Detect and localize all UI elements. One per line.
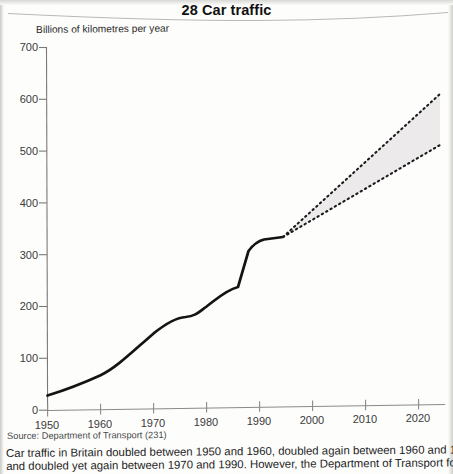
ytick-label-0: 0 <box>4 404 38 416</box>
ytick-label-200: 200 <box>4 300 38 312</box>
figure-page: 28 Car traffic Billions of kilometres pe… <box>0 0 453 474</box>
ytick-label-600: 600 <box>4 93 38 105</box>
xtick-label-1980: 1980 <box>186 416 226 428</box>
ytick-label-500: 500 <box>4 145 38 157</box>
series-actual-line <box>48 237 284 396</box>
ytick-label-700: 700 <box>4 41 38 53</box>
xtick-label-1960: 1960 <box>80 418 120 430</box>
source-note: Source: Department of Transport (231) <box>7 430 167 441</box>
xtick-label-1950: 1950 <box>27 419 67 431</box>
x-axis-line <box>48 405 445 411</box>
xtick-label-2000: 2000 <box>292 414 332 426</box>
ytick-label-100: 100 <box>4 352 38 364</box>
ytick-label-300: 300 <box>4 249 38 261</box>
series-forecast-low <box>283 145 440 237</box>
xtick-label-2020: 2020 <box>398 412 438 424</box>
series-forecast-high <box>283 94 440 237</box>
xtick-label-1970: 1970 <box>133 417 173 429</box>
figure-caption: Car traffic in Britain doubled between 1… <box>6 444 448 473</box>
y-axis-line <box>47 47 48 411</box>
chart-plot-area <box>0 0 453 474</box>
ytick-label-400: 400 <box>4 197 38 209</box>
xtick-label-1990: 1990 <box>239 415 279 427</box>
xtick-label-2010: 2010 <box>345 413 385 425</box>
